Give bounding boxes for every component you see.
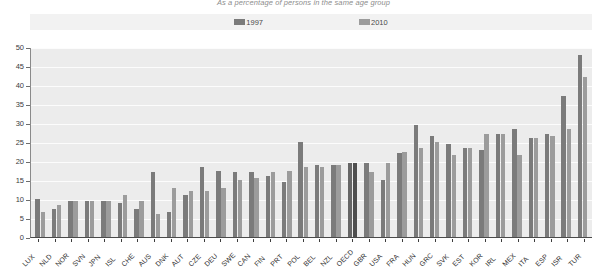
bar-2010-nld[interactable]	[57, 205, 61, 237]
bar-2010-oecd[interactable]	[353, 163, 357, 237]
bar-group-irl[interactable]	[492, 48, 508, 237]
bar-group-aut[interactable]	[180, 48, 196, 237]
bar-2010-kor[interactable]	[484, 134, 488, 237]
bar-group-swe[interactable]	[229, 48, 245, 237]
bar-2010-svk[interactable]	[452, 155, 456, 237]
bar-2010-hun[interactable]	[419, 148, 423, 237]
bar-group-svn[interactable]	[81, 48, 97, 237]
bar-2010-usa[interactable]	[386, 163, 390, 237]
bar-1997-usa[interactable]	[381, 180, 385, 237]
bar-group-pol[interactable]	[295, 48, 311, 237]
bar-2010-tur[interactable]	[583, 77, 587, 237]
bar-2010-cze[interactable]	[205, 191, 209, 237]
bar-1997-isr[interactable]	[561, 96, 565, 237]
bar-2010-est[interactable]	[468, 148, 472, 237]
bar-group-jpn[interactable]	[98, 48, 114, 237]
bar-1997-ita[interactable]	[529, 138, 533, 237]
bar-1997-jpn[interactable]	[101, 201, 105, 237]
bar-1997-swe[interactable]	[233, 172, 237, 237]
bar-2010-fra[interactable]	[402, 152, 406, 238]
bar-2010-che[interactable]	[139, 201, 143, 237]
bar-group-fin[interactable]	[262, 48, 278, 237]
bar-group-ita[interactable]	[525, 48, 541, 237]
bar-2010-aus[interactable]	[156, 214, 160, 237]
bar-group-svk[interactable]	[443, 48, 459, 237]
bar-group-isl[interactable]	[114, 48, 130, 237]
bar-1997-aus[interactable]	[151, 172, 155, 237]
bar-1997-can[interactable]	[249, 172, 253, 237]
bar-group-oecd[interactable]	[344, 48, 360, 237]
bar-group-nld[interactable]	[48, 48, 64, 237]
bar-1997-nld[interactable]	[52, 209, 56, 238]
bar-group-kor[interactable]	[476, 48, 492, 237]
bar-1997-grc[interactable]	[430, 136, 434, 237]
bar-1997-kor[interactable]	[479, 150, 483, 237]
bar-group-deu[interactable]	[213, 48, 229, 237]
bar-1997-lux[interactable]	[35, 199, 39, 237]
bar-group-dnk[interactable]	[164, 48, 180, 237]
bar-group-grc[interactable]	[427, 48, 443, 237]
bar-2010-isl[interactable]	[123, 195, 127, 237]
bar-group-usa[interactable]	[377, 48, 393, 237]
bar-group-isr[interactable]	[558, 48, 574, 237]
bar-1997-fin[interactable]	[266, 176, 270, 237]
bar-1997-isl[interactable]	[118, 203, 122, 237]
bar-1997-irl[interactable]	[496, 134, 500, 237]
bar-2010-irl[interactable]	[501, 134, 505, 237]
bar-2010-pol[interactable]	[304, 167, 308, 237]
bar-group-can[interactable]	[246, 48, 262, 237]
bar-2010-mex[interactable]	[517, 155, 521, 237]
bar-group-esp[interactable]	[542, 48, 558, 237]
bar-group-nor[interactable]	[65, 48, 81, 237]
bar-group-bel[interactable]	[311, 48, 327, 237]
bar-1997-tur[interactable]	[578, 55, 582, 237]
bar-1997-svk[interactable]	[446, 144, 450, 237]
bar-1997-svn[interactable]	[85, 201, 89, 237]
bar-2010-aut[interactable]	[189, 191, 193, 237]
bar-1997-bel[interactable]	[315, 165, 319, 237]
bar-group-fra[interactable]	[394, 48, 410, 237]
bar-1997-gbr[interactable]	[364, 163, 368, 237]
bar-2010-jpn[interactable]	[106, 201, 110, 237]
bar-1997-est[interactable]	[463, 148, 467, 237]
bar-1997-nor[interactable]	[68, 201, 72, 237]
bar-2010-ita[interactable]	[534, 138, 538, 237]
bar-1997-oecd[interactable]	[348, 163, 352, 237]
bar-group-nzl[interactable]	[328, 48, 344, 237]
bar-1997-cze[interactable]	[200, 167, 204, 237]
bar-2010-dnk[interactable]	[172, 188, 176, 237]
bar-group-mex[interactable]	[509, 48, 525, 237]
bar-1997-hun[interactable]	[414, 125, 418, 237]
bar-group-cze[interactable]	[196, 48, 212, 237]
bar-2010-lux[interactable]	[41, 212, 45, 237]
bar-1997-dnk[interactable]	[167, 212, 171, 237]
bar-group-gbr[interactable]	[361, 48, 377, 237]
bar-2010-deu[interactable]	[221, 188, 225, 237]
bar-2010-prt[interactable]	[287, 171, 291, 238]
bar-2010-nor[interactable]	[73, 201, 77, 237]
bar-group-che[interactable]	[131, 48, 147, 237]
bar-2010-esp[interactable]	[550, 136, 554, 237]
bar-2010-gbr[interactable]	[369, 172, 373, 237]
bar-group-hun[interactable]	[410, 48, 426, 237]
bar-group-est[interactable]	[459, 48, 475, 237]
bar-2010-grc[interactable]	[435, 142, 439, 237]
bar-1997-mex[interactable]	[512, 129, 516, 237]
bar-2010-can[interactable]	[254, 178, 258, 237]
bar-1997-prt[interactable]	[282, 182, 286, 237]
bar-2010-svn[interactable]	[90, 201, 94, 237]
bar-1997-che[interactable]	[134, 209, 138, 238]
bar-1997-aut[interactable]	[183, 195, 187, 237]
bar-group-tur[interactable]	[574, 48, 590, 237]
bar-2010-isr[interactable]	[567, 129, 571, 237]
bar-1997-deu[interactable]	[216, 171, 220, 238]
bar-2010-fin[interactable]	[271, 172, 275, 237]
bar-group-prt[interactable]	[279, 48, 295, 237]
bar-2010-swe[interactable]	[238, 180, 242, 237]
bar-1997-fra[interactable]	[397, 153, 401, 237]
bar-group-lux[interactable]	[32, 48, 48, 237]
bar-1997-nzl[interactable]	[331, 165, 335, 237]
bar-group-aus[interactable]	[147, 48, 163, 237]
bar-2010-bel[interactable]	[320, 167, 324, 237]
bar-2010-nzl[interactable]	[336, 165, 340, 237]
